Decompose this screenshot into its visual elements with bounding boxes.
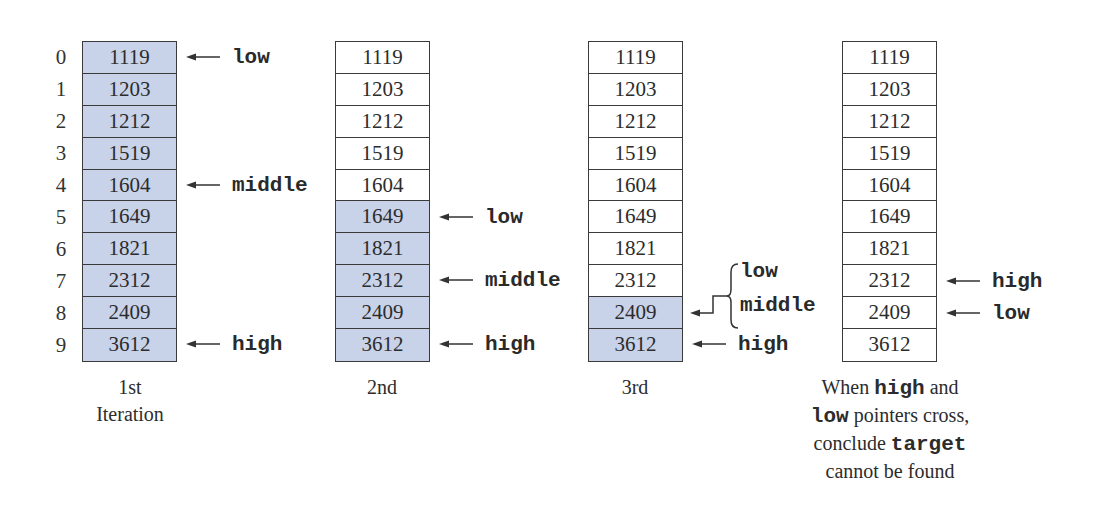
caption-text: When bbox=[821, 376, 874, 398]
caption-text: cannot be found bbox=[826, 460, 955, 482]
array-cell: 1821 bbox=[843, 233, 936, 265]
array-cell: 1119 bbox=[83, 42, 176, 74]
pointer-group-low-middle: low middle bbox=[690, 258, 850, 330]
pointer-label: low bbox=[485, 206, 523, 229]
pointer-middle: middle bbox=[439, 264, 561, 296]
array-cell: 1821 bbox=[83, 233, 176, 265]
array-cell: 1649 bbox=[336, 201, 429, 233]
pointer-label: middle bbox=[485, 269, 561, 292]
caption-code-high: high bbox=[874, 377, 924, 400]
caption-line: conclude target bbox=[780, 430, 1000, 458]
array-cell: 1604 bbox=[589, 170, 682, 202]
array-cell: 1203 bbox=[83, 74, 176, 106]
array-cell: 1604 bbox=[336, 170, 429, 202]
array-cell: 1203 bbox=[336, 74, 429, 106]
pointer-low: low bbox=[439, 201, 523, 233]
array-cell: 1212 bbox=[843, 106, 936, 138]
array-cell: 1119 bbox=[336, 42, 429, 74]
array-cell: 2409 bbox=[589, 297, 682, 329]
caption-line: 3rd bbox=[575, 374, 695, 401]
caption-iteration-3: 3rd bbox=[575, 374, 695, 401]
array-cell: 1519 bbox=[843, 138, 936, 170]
array-iteration-1: 1119 1203 1212 1519 1604 1649 1821 2312 … bbox=[82, 41, 177, 362]
caption-text: pointers cross, bbox=[849, 404, 970, 426]
pointer-label: low bbox=[232, 46, 270, 69]
left-arrow-icon bbox=[439, 334, 473, 354]
caption-conclusion: When high and low pointers cross, conclu… bbox=[780, 374, 1000, 485]
caption-code-target: target bbox=[891, 433, 967, 456]
index-label: 6 bbox=[50, 233, 72, 265]
caption-iteration-2: 2nd bbox=[322, 374, 442, 401]
caption-line: low pointers cross, bbox=[780, 402, 1000, 430]
left-arrow-icon bbox=[946, 271, 980, 291]
array-cell: 3612 bbox=[589, 329, 682, 361]
index-label: 2 bbox=[50, 105, 72, 137]
caption-iteration-1: 1st Iteration bbox=[70, 374, 190, 428]
array-cell: 3612 bbox=[83, 329, 176, 361]
index-label: 4 bbox=[50, 169, 72, 201]
pointer-middle: middle bbox=[186, 169, 308, 201]
array-cell: 1203 bbox=[843, 74, 936, 106]
pointer-label: high bbox=[738, 333, 788, 356]
array-cell: 3612 bbox=[336, 329, 429, 361]
array-cell: 2312 bbox=[83, 265, 176, 297]
index-label: 8 bbox=[50, 297, 72, 329]
left-arrow-icon bbox=[186, 175, 220, 195]
array-cell: 1649 bbox=[843, 201, 936, 233]
array-cell: 2409 bbox=[83, 297, 176, 329]
index-label: 0 bbox=[50, 41, 72, 73]
pointer-high: high bbox=[186, 328, 282, 360]
array-cell: 2312 bbox=[843, 265, 936, 297]
array-cell: 1821 bbox=[336, 233, 429, 265]
index-label: 5 bbox=[50, 201, 72, 233]
index-label: 7 bbox=[50, 265, 72, 297]
array-cell: 1821 bbox=[589, 233, 682, 265]
array-cell: 1519 bbox=[83, 138, 176, 170]
array-cell: 1519 bbox=[589, 138, 682, 170]
array-iteration-2: 1119 1203 1212 1519 1604 1649 1821 2312 … bbox=[335, 41, 430, 362]
array-cell: 1212 bbox=[589, 106, 682, 138]
caption-line: 2nd bbox=[322, 374, 442, 401]
pointer-label-middle: middle bbox=[740, 294, 816, 317]
caption-line: cannot be found bbox=[780, 458, 1000, 485]
pointer-low: low bbox=[186, 41, 270, 73]
pointer-label: low bbox=[992, 302, 1030, 325]
array-cell: 2409 bbox=[336, 297, 429, 329]
caption-line: 1st bbox=[70, 374, 190, 401]
index-column: 0 1 2 3 4 5 6 7 8 9 bbox=[50, 41, 72, 361]
caption-text: and bbox=[925, 376, 959, 398]
index-label: 3 bbox=[50, 137, 72, 169]
array-cell: 2312 bbox=[589, 265, 682, 297]
pointer-label: high bbox=[232, 333, 282, 356]
left-arrow-icon bbox=[946, 303, 980, 323]
array-iteration-4: 1119 1203 1212 1519 1604 1649 1821 2312 … bbox=[842, 41, 937, 362]
left-arrow-icon bbox=[692, 334, 726, 354]
array-cell: 2312 bbox=[336, 265, 429, 297]
array-cell: 1649 bbox=[83, 201, 176, 233]
array-cell: 1604 bbox=[843, 170, 936, 202]
index-label: 1 bbox=[50, 73, 72, 105]
array-cell: 2409 bbox=[843, 297, 936, 329]
array-cell: 1212 bbox=[336, 106, 429, 138]
left-arrow-icon bbox=[186, 47, 220, 67]
pointer-low: low bbox=[946, 297, 1030, 329]
array-cell: 1119 bbox=[589, 42, 682, 74]
left-arrow-icon bbox=[186, 334, 220, 354]
array-cell: 1519 bbox=[336, 138, 429, 170]
pointer-label: middle bbox=[232, 174, 308, 197]
array-cell: 1212 bbox=[83, 106, 176, 138]
pointer-label-low: low bbox=[740, 260, 778, 283]
array-cell: 1119 bbox=[843, 42, 936, 74]
caption-line: When high and bbox=[780, 374, 1000, 402]
pointer-high: high bbox=[692, 328, 788, 360]
left-arrow-icon bbox=[439, 207, 473, 227]
caption-line: Iteration bbox=[70, 401, 190, 428]
array-cell: 1649 bbox=[589, 201, 682, 233]
left-arrow-icon bbox=[439, 270, 473, 290]
pointer-label: high bbox=[485, 333, 535, 356]
index-label: 9 bbox=[50, 329, 72, 361]
pointer-high: high bbox=[946, 265, 1042, 297]
caption-code-low: low bbox=[811, 405, 849, 428]
array-cell: 1604 bbox=[83, 170, 176, 202]
pointer-label: high bbox=[992, 270, 1042, 293]
